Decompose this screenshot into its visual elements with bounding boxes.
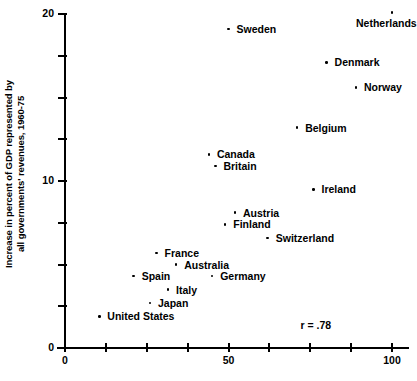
y-tick-label: 0 xyxy=(28,342,54,353)
data-point-label: Finland xyxy=(233,219,270,230)
data-point-label: Switzerland xyxy=(276,233,334,244)
data-point-label: Japan xyxy=(158,298,188,309)
y-tick xyxy=(58,55,67,57)
data-point-marker xyxy=(132,275,135,278)
data-point-label: United States xyxy=(107,311,174,322)
data-point-marker xyxy=(325,61,328,64)
y-tick xyxy=(58,138,67,140)
data-point-marker xyxy=(98,315,101,318)
data-point-marker xyxy=(214,165,217,168)
data-point-label: Denmark xyxy=(335,57,380,68)
data-point-marker xyxy=(266,237,269,240)
y-tick-label: 10 xyxy=(28,175,54,186)
data-point-label: Australia xyxy=(184,260,229,271)
data-point-label: Belgium xyxy=(305,123,346,134)
data-point-label: Italy xyxy=(176,285,197,296)
y-axis-title-line-2: all governments' revenues, 1960-75 xyxy=(15,80,27,268)
y-tick xyxy=(58,305,67,307)
data-point-label: Netherlands xyxy=(356,18,417,29)
data-point-label: Ireland xyxy=(322,184,356,195)
data-point-marker xyxy=(296,126,299,129)
data-point-label: Austria xyxy=(243,208,279,219)
data-point-label: Sweden xyxy=(237,24,277,35)
y-tick xyxy=(58,13,67,15)
x-tick-label: 0 xyxy=(48,355,82,366)
data-point-label: Norway xyxy=(364,82,402,93)
data-point-marker xyxy=(175,263,178,266)
y-axis-title: Increase in percent of GDP represented b… xyxy=(0,0,30,348)
x-tick xyxy=(391,343,393,352)
data-point-label: Germany xyxy=(220,271,266,282)
data-point-label: France xyxy=(165,248,199,259)
data-point-label: Canada xyxy=(217,149,255,160)
y-tick xyxy=(58,264,67,266)
correlation-annotation: r = .78 xyxy=(300,319,331,331)
y-tick xyxy=(58,222,67,224)
data-point-marker xyxy=(312,188,315,191)
data-point-marker xyxy=(211,275,214,278)
x-tick xyxy=(228,343,230,352)
x-tick xyxy=(309,343,311,352)
data-point-marker xyxy=(208,153,211,156)
data-point-marker xyxy=(167,288,170,291)
x-tick xyxy=(146,343,148,352)
y-tick-label: 20 xyxy=(28,8,54,19)
y-tick xyxy=(58,97,67,99)
y-tick xyxy=(58,180,67,182)
y-axis-title-line-1: Increase in percent of GDP represented b… xyxy=(3,80,15,268)
x-tick xyxy=(64,343,66,352)
data-point-marker xyxy=(234,211,237,214)
data-point-label: Spain xyxy=(142,271,171,282)
data-point-marker xyxy=(227,28,230,31)
data-point-marker xyxy=(155,252,158,255)
data-point-marker xyxy=(355,86,358,89)
x-tick xyxy=(105,343,107,352)
x-tick-label: 100 xyxy=(375,355,409,366)
data-point-marker xyxy=(224,223,227,226)
data-point-marker xyxy=(391,11,394,14)
x-axis-line xyxy=(57,347,409,349)
x-tick xyxy=(268,343,270,352)
x-tick xyxy=(350,343,352,352)
data-point-label: Britain xyxy=(223,161,256,172)
x-tick xyxy=(187,343,189,352)
data-point-marker xyxy=(149,302,152,305)
x-tick-label: 50 xyxy=(212,355,246,366)
